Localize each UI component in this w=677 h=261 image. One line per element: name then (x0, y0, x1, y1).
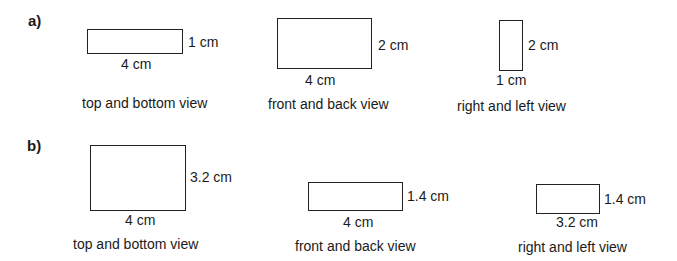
rectangle-shape (308, 182, 403, 211)
part-label: a) (28, 13, 41, 28)
view-caption: front and back view (295, 239, 416, 253)
view-caption: front and back view (268, 97, 389, 111)
width-label: 1 cm (496, 73, 526, 87)
width-label: 4 cm (305, 73, 335, 87)
view-caption: top and bottom view (82, 96, 207, 110)
rectangle-shape (87, 29, 183, 54)
width-label: 4 cm (125, 213, 155, 227)
width-label: 4 cm (121, 57, 151, 71)
view-caption: top and bottom view (73, 237, 198, 251)
height-label: 1 cm (188, 35, 218, 49)
width-label: 3.2 cm (556, 215, 598, 229)
rectangle-shape (90, 145, 186, 211)
rectangle-shape (499, 20, 523, 71)
view-caption: right and left view (518, 240, 627, 254)
rectangle-shape (277, 18, 372, 69)
width-label: 4 cm (343, 215, 373, 229)
part-label: b) (27, 138, 41, 153)
height-label: 2 cm (378, 38, 408, 52)
height-label: 1.4 cm (407, 189, 449, 203)
height-label: 3.2 cm (190, 170, 232, 184)
rectangle-shape (536, 184, 600, 214)
view-caption: right and left view (457, 99, 566, 113)
height-label: 2 cm (528, 38, 558, 52)
height-label: 1.4 cm (604, 192, 646, 206)
